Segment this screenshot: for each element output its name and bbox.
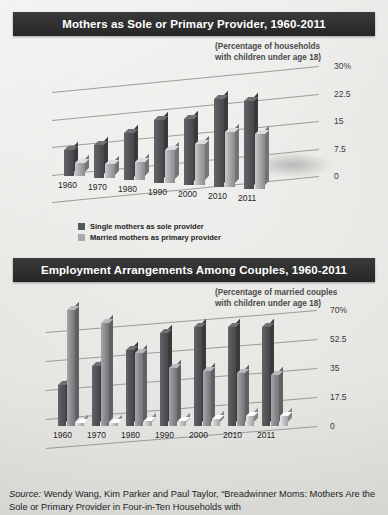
x-axis-tick-label: 2011 <box>257 430 275 440</box>
x-axis-tick-label: 1960 <box>58 180 77 190</box>
source-label: Source: <box>9 489 41 499</box>
bar-group <box>214 99 235 187</box>
bar <box>244 101 254 189</box>
chart-title-employment-arrangements: Employment Arrangements Among Couples, 1… <box>13 258 375 282</box>
bar-face <box>154 120 164 182</box>
y-axis-tick-label: 35 <box>330 363 339 373</box>
x-axis-tick-label: 2011 <box>238 193 256 203</box>
bar <box>110 423 118 426</box>
y-axis-tick-label: 22.5 <box>334 89 351 99</box>
bar-face <box>124 133 134 181</box>
bar <box>280 416 288 426</box>
chart-panel-mothers-provider: Mothers as Sole or Primary Provider, 196… <box>0 0 388 248</box>
bar <box>94 145 104 178</box>
bar-face <box>126 350 134 426</box>
bar-face <box>194 327 202 426</box>
bar-face <box>169 368 177 426</box>
x-axis-tick-label: 1970 <box>87 430 106 440</box>
bar-face <box>225 132 235 187</box>
bar-face <box>135 353 143 426</box>
x-axis-tick-label: 1960 <box>53 430 72 440</box>
bars-mothers-provider <box>52 66 320 176</box>
bar <box>228 327 236 426</box>
bar-face <box>262 327 270 426</box>
bar <box>64 150 74 176</box>
bar-side <box>177 360 181 422</box>
bar <box>76 423 84 426</box>
bar-group <box>228 327 254 426</box>
bar <box>101 323 109 426</box>
bar-face <box>67 310 75 426</box>
bar-group <box>64 150 85 176</box>
legend-label: Married mothers as primary provider <box>90 233 221 242</box>
y-axis-tick-label: 52.5 <box>330 334 347 344</box>
bar-face <box>64 150 74 176</box>
bars-employment-arrangements <box>46 310 318 426</box>
bar-face <box>165 150 175 183</box>
bar-face <box>203 371 211 426</box>
bar-face <box>214 99 224 187</box>
bar-face <box>101 323 109 426</box>
bar <box>225 132 235 187</box>
infographic-page: Mothers as Sole or Primary Provider, 196… <box>0 0 388 515</box>
bar-group <box>154 120 175 182</box>
y-axis-tick-label: 0 <box>334 171 339 181</box>
legend-item: Single mothers as sole provider <box>78 222 221 231</box>
bar <box>178 421 186 426</box>
bar <box>160 333 168 426</box>
bar <box>144 421 152 426</box>
bar <box>165 150 175 183</box>
bar-top <box>110 419 122 423</box>
source-note: Source: Wendy Wang, Kim Parker and Paul … <box>9 488 381 513</box>
x-axis-tick-label: 2010 <box>208 191 227 201</box>
bar-face <box>92 366 100 426</box>
bar <box>194 327 202 426</box>
x-axis-tick-label: 1990 <box>155 430 174 440</box>
bar <box>58 385 66 426</box>
bar <box>214 99 224 187</box>
x-axis-tick-label: 2010 <box>223 430 242 440</box>
bar-side <box>75 302 79 422</box>
bar-group <box>244 101 265 189</box>
bar-face <box>255 134 265 189</box>
bar-face <box>212 419 220 426</box>
bar-group <box>126 350 152 426</box>
bar <box>124 133 134 181</box>
subtitle-line-1: (Percentage of households <box>215 42 370 53</box>
source-text: Wendy Wang, Kim Parker and Paul Taylor, … <box>9 489 375 512</box>
bar-group <box>194 327 220 426</box>
x-axis-tick-label: 2000 <box>178 189 197 199</box>
bar <box>262 327 270 426</box>
chart-title-mothers-provider: Mothers as Sole or Primary Provider, 196… <box>13 12 375 36</box>
bar <box>255 134 265 189</box>
bar-face <box>75 163 85 176</box>
legend-label: Single mothers as sole provider <box>90 222 204 231</box>
bar <box>203 371 211 426</box>
bar <box>154 120 164 182</box>
bar-face <box>228 327 236 426</box>
bar-side <box>115 155 119 174</box>
x-axis-tick-label: 2000 <box>189 430 208 440</box>
bar-group <box>94 145 115 178</box>
plot-area-employment-arrangements: 1960197019801990200020102011 017.53552.5… <box>46 310 318 426</box>
bar <box>92 366 100 426</box>
bar <box>169 368 177 426</box>
bar-face <box>184 119 194 185</box>
bar-face <box>105 164 115 179</box>
bar-group <box>124 133 145 181</box>
bar-top <box>76 419 88 423</box>
bar <box>195 144 205 184</box>
y-axis-tick-label: 15 <box>334 116 343 126</box>
y-axis-tick-label: 17.5 <box>330 392 347 402</box>
legend-swatch <box>78 234 85 241</box>
bar-group <box>58 310 84 426</box>
bar-face <box>110 423 118 426</box>
bar <box>135 353 143 426</box>
bar <box>246 416 254 426</box>
x-axis-tick-label: 1980 <box>118 184 137 194</box>
bar-side <box>211 363 215 422</box>
bar-face <box>76 423 84 426</box>
y-axis-tick-label: 70% <box>330 305 347 315</box>
bar <box>184 119 194 185</box>
legend-mothers-provider: Single mothers as sole providerMarried m… <box>78 222 221 244</box>
